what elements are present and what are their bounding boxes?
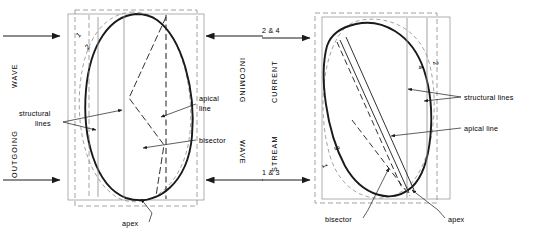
right-callout-bisector: bisector xyxy=(325,215,352,224)
right-callout-apical-line: apical line xyxy=(464,124,498,133)
right-leader-bisector xyxy=(363,168,389,218)
left-leader-apex xyxy=(141,199,152,222)
left-apical-line xyxy=(129,17,166,196)
right-direction-tag-2-and-4: 2 & 4 xyxy=(262,26,280,35)
left-label-outgoing: OUTGOING xyxy=(10,130,19,178)
right-leader-apical-line xyxy=(391,128,461,136)
left-callout-structural-lines-line1: structural xyxy=(19,109,51,118)
right-leader-apex xyxy=(412,190,445,218)
left-label-wave-incoming: WAVE xyxy=(238,140,247,165)
left-curve-number-1: 1 xyxy=(74,31,82,38)
diagram-svg: 1 2 WAVE OUTGOING INCOMING WAVE structur… xyxy=(0,0,540,236)
left-callout-apical-line-line2: line xyxy=(199,104,211,113)
left-callout-bisector: bisector xyxy=(199,136,226,145)
right-leader-structural-lines xyxy=(408,89,461,101)
right-label-current: CURRENT xyxy=(270,60,279,103)
left-structural-lines xyxy=(98,16,124,198)
right-outline-curve-3 xyxy=(324,23,431,196)
left-leader-structural-lines xyxy=(63,110,122,130)
right-callout-apex: apex xyxy=(448,215,465,224)
right-callout-structural-lines: structural lines xyxy=(464,93,514,102)
right-label-stream: STREAM xyxy=(270,135,279,172)
right-panel-group: 2 4 3 1 2 & 4 1 & 3 CURRENT STREAM struc… xyxy=(262,13,514,224)
left-panel-group: 1 2 WAVE OUTGOING INCOMING WAVE structur… xyxy=(3,10,263,228)
left-outline-curve-2 xyxy=(85,14,192,200)
left-label-wave-outgoing: WAVE xyxy=(10,63,19,88)
left-label-incoming: INCOMING xyxy=(238,58,247,104)
left-callout-apex: apex xyxy=(122,219,139,228)
right-apical-line xyxy=(340,37,414,193)
left-callout-apical-line-line1: apical xyxy=(199,94,219,103)
right-outline-curve-1 xyxy=(323,19,434,198)
right-curve-number-2: 2 xyxy=(432,59,440,66)
left-callout-structural-lines-line2: lines xyxy=(35,119,51,128)
figure-root: 1 2 WAVE OUTGOING INCOMING WAVE structur… xyxy=(0,0,540,236)
right-bisector-line xyxy=(337,42,410,196)
